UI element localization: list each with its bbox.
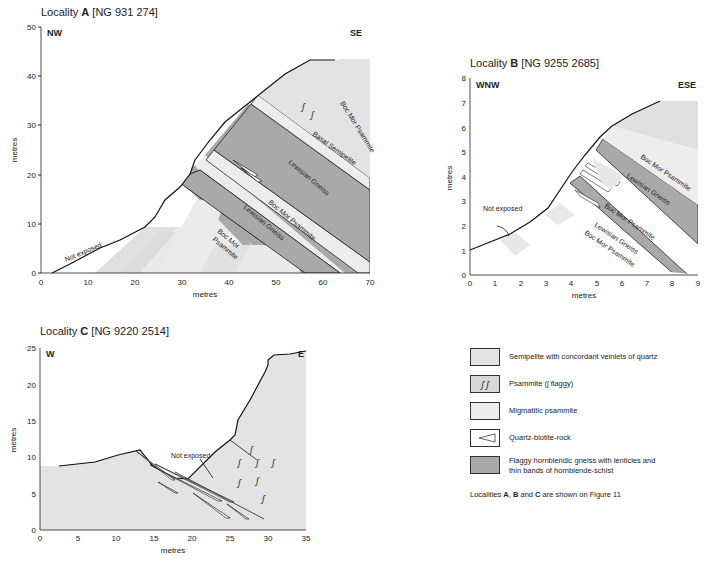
y-axis-label: metres: [445, 166, 454, 190]
x-tick: 20: [131, 278, 140, 287]
lens-icon: [471, 430, 499, 446]
direction-nw: NW: [47, 28, 62, 38]
x-tick: 7: [645, 279, 650, 288]
x-tick: 25: [226, 534, 235, 543]
x-tick: 0: [38, 534, 43, 543]
y-tick: 20: [27, 171, 36, 180]
y-tick: 5: [32, 490, 37, 499]
x-tick: 35: [302, 534, 311, 543]
x-tick: 8: [670, 279, 675, 288]
y-tick: 7: [462, 99, 467, 108]
y-tick: 2: [462, 222, 467, 231]
x-tick: 50: [272, 278, 281, 287]
y-tick: 0: [32, 269, 37, 278]
x-axis-label: metres: [193, 290, 217, 299]
x-tick: 10: [112, 534, 121, 543]
x-tick: 9: [696, 279, 701, 288]
x-tick: 10: [84, 278, 93, 287]
x-tick: 5: [595, 279, 600, 288]
y-tick: 25: [27, 344, 36, 353]
legend-item-migmatitic-psammite: Migmatitic psammite: [470, 402, 577, 420]
x-tick: 40: [225, 278, 234, 287]
x-axis-label: metres: [161, 546, 185, 555]
y-axis-label: metres: [9, 428, 18, 452]
y-tick: 10: [27, 220, 36, 229]
x-axis-ticks: 0 1 2 3 4 5 6 7 8 9: [468, 279, 701, 288]
legend-swatch: [470, 402, 500, 420]
x-tick: 0: [39, 278, 44, 287]
y-tick: 30: [27, 121, 36, 130]
y-tick: 3: [462, 197, 467, 206]
y-tick: 0: [32, 526, 37, 535]
legend-swatch: [470, 348, 500, 366]
legend-label-line: thin bands of hornblende-schist: [509, 466, 655, 476]
x-tick: 15: [150, 534, 159, 543]
legend-label: Psammite (ʃ flaggy): [509, 375, 573, 389]
legend-item-hornblendic-gneiss: Flaggy hornblendic gneiss with lenticles…: [470, 456, 655, 476]
x-tick: 6: [620, 279, 625, 288]
note-text: and: [518, 490, 535, 499]
y-tick: 1: [462, 247, 467, 256]
y-tick: 8: [462, 74, 467, 83]
x-tick: 20: [188, 534, 197, 543]
y-tick: 5: [462, 148, 467, 157]
x-axis-ticks: 0 5 10 15 20 25 30 35: [38, 534, 311, 543]
y-tick: 20: [27, 381, 36, 390]
legend-label: Migmatitic psammite: [509, 402, 577, 416]
x-axis-label: metres: [572, 291, 596, 300]
x-tick: 5: [76, 534, 81, 543]
legend-swatch: [470, 456, 500, 474]
x-tick: 30: [178, 278, 187, 287]
legend-item-quartz-biotite-rock: Quartz-biotite-rock: [470, 429, 571, 447]
x-tick: 1: [493, 279, 498, 288]
y-tick: 4: [462, 173, 467, 182]
direction-wnw: WNW: [476, 80, 500, 90]
label-not-exposed: Not exposed: [171, 452, 210, 460]
x-tick: 30: [264, 534, 273, 543]
note-text: are shown on Figure 11: [540, 490, 620, 499]
x-tick: 60: [319, 278, 328, 287]
y-axis-ticks: 0 5 10 15 20 25: [27, 344, 36, 535]
locality-a-section: ʃ ʃ 0 10 20 30 40 50 0 10 20 30 40 50 60…: [10, 23, 376, 299]
legend-label: Quartz-biotite-rock: [509, 429, 571, 443]
legend-swatch: [470, 429, 500, 447]
x-tick: 0: [468, 279, 473, 288]
locality-b-section: 0 1 2 3 4 5 6 7 8 0 1 2 3 4 5 6 7 8 9 me…: [445, 74, 701, 300]
legend-label-line: Flaggy hornblendic gneiss with lenticles…: [509, 456, 655, 466]
note-text: Localities: [470, 490, 503, 499]
legend-label: Flaggy hornblendic gneiss with lenticles…: [509, 456, 655, 476]
y-tick: 10: [27, 453, 36, 462]
locality-c-section: ʃʃʃ ʃʃʃʃ 0 5 10 15 20 25 0 5 10 15 20 25…: [9, 344, 311, 555]
direction-w: W: [46, 349, 55, 359]
x-tick: 3: [544, 279, 549, 288]
y-axis-ticks: 0 1 2 3 4 5 6 7 8: [462, 74, 467, 280]
direction-ese: ESE: [678, 80, 696, 90]
cross-section-figure: ʃ ʃ 0 10 20 30 40 50 0 10 20 30 40 50 60…: [0, 0, 716, 564]
x-tick: 70: [366, 278, 375, 287]
direction-se: SE: [350, 28, 362, 38]
x-tick: 2: [519, 279, 524, 288]
legend-item-semipelite: Semipelite with concordant veinlets of q…: [470, 348, 657, 366]
legend-item-psammite: ʃ ʃ Psammite (ʃ flaggy): [470, 375, 573, 393]
x-axis-ticks: 0 10 20 30 40 50 60 70: [39, 278, 375, 287]
label-not-exposed: Not exposed: [483, 205, 522, 213]
y-tick: 6: [462, 124, 467, 133]
legend-label: Semipelite with concordant veinlets of q…: [509, 348, 657, 362]
y-tick: 40: [27, 72, 36, 81]
y-tick: 15: [27, 417, 36, 426]
direction-e: E: [298, 349, 304, 359]
x-tick: 4: [569, 279, 574, 288]
y-axis-label: metres: [10, 138, 19, 162]
legend-swatch-flaggy: ʃ ʃ: [470, 375, 500, 393]
y-tick: 0: [462, 271, 467, 280]
y-tick: 50: [27, 23, 36, 32]
figure-note: Localities A, B and C are shown on Figur…: [470, 490, 621, 499]
y-axis-ticks: 0 10 20 30 40 50: [27, 23, 41, 278]
